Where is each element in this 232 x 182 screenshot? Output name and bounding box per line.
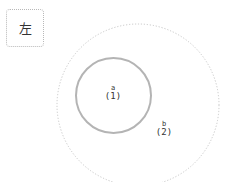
legend-label: 左 <box>19 22 32 35</box>
legend-box: 左 <box>6 9 44 47</box>
node-label-a: a (1) <box>103 84 123 101</box>
node-name-a: a <box>103 84 123 91</box>
node-count-a: (1) <box>103 92 123 101</box>
node-label-b: b (2) <box>154 120 174 137</box>
node-count-b: (2) <box>154 128 174 137</box>
node-name-b: b <box>154 120 174 127</box>
